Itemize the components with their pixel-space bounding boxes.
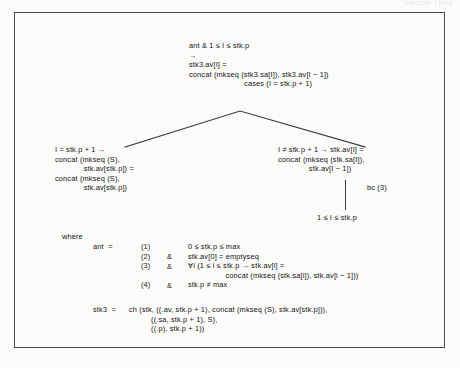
proof-right-leaf-formula: 1 ≤ I ≤ stk.p [317, 213, 357, 223]
scanned-page: PROOF TREE ant & 1 ≤ I ≤ stk.p → stk3.av… [0, 0, 460, 368]
proof-root-formula: ant & 1 ≤ I ≤ stk.p → stk3.av[I] = conca… [189, 41, 329, 89]
faint-page-header: PROOF TREE [405, 0, 454, 6]
where-condition-bodies: 0 ≤ stk.p ≤ max stk.av[0] = emptyseq ∀i … [188, 242, 358, 290]
where-condition-numbers: (1) (2) (3) (4) [141, 242, 150, 290]
proof-left-branch-formula: I = stk.p + 1 → concat (mkseq (S), stk.a… [55, 145, 134, 193]
where-keyword: where [62, 232, 83, 242]
proof-rule-label-bc3: bc (3) [367, 183, 387, 193]
ant-definition-label: ant = [93, 242, 113, 252]
figure-frame-box: ant & 1 ≤ I ≤ stk.p → stk3.av[I] = conca… [14, 12, 445, 348]
stk3-definition-label: stk3 = [93, 305, 116, 315]
where-condition-connectors: & & & [167, 252, 172, 290]
stk3-definition-body: ch (stk, ((.av, stk.p + 1), concat (mkse… [129, 305, 327, 334]
right-branch-vertical-rule [345, 180, 346, 210]
proof-right-branch-formula: I ≠ stk.p + 1 → stk.av[I] = concat (mkse… [278, 145, 364, 174]
branch-connector-lines [115, 109, 375, 149]
